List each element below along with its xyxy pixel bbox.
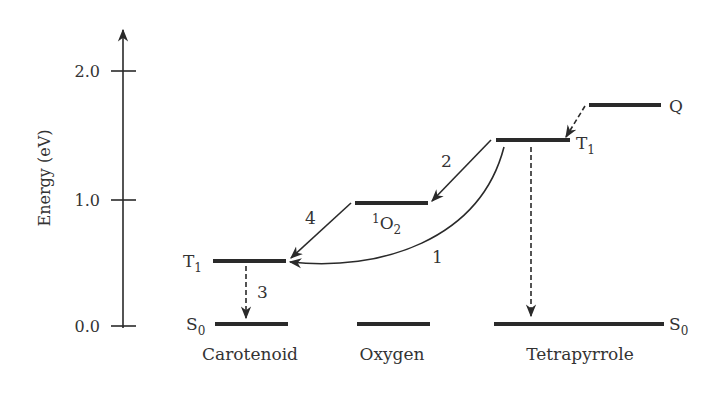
- transition-3-label: 3: [257, 282, 268, 302]
- axis-label: Energy (eV): [35, 130, 54, 227]
- transition-1-label: 1: [432, 247, 443, 267]
- arrow-transition-4: [291, 203, 351, 258]
- tetrapyrrole-t1-label: T1: [576, 133, 595, 157]
- quencher-label: Q: [669, 96, 683, 116]
- tick-label-1: 1.0: [75, 191, 100, 210]
- oxygen-label: Oxygen: [359, 344, 424, 364]
- oxygen-singlet-label: 1O2: [372, 212, 401, 237]
- tetrapyrrole-s0-label: S0: [669, 314, 688, 338]
- tick-label-2: 2.0: [75, 62, 100, 81]
- carotenoid-label: Carotenoid: [202, 344, 298, 364]
- energy-level-diagram: 0.0 1.0 2.0 Energy (eV) T1 S0 Carotenoid…: [0, 0, 720, 394]
- tick-label-0: 0.0: [75, 317, 100, 336]
- transition-2-label: 2: [441, 151, 452, 171]
- arrow-transition-1: [290, 147, 504, 264]
- tetrapyrrole-label: Tetrapyrrole: [526, 344, 634, 364]
- carotenoid-t1-label: T1: [183, 251, 202, 275]
- carotenoid-s0-label: S0: [186, 314, 205, 338]
- transition-4-label: 4: [305, 208, 316, 228]
